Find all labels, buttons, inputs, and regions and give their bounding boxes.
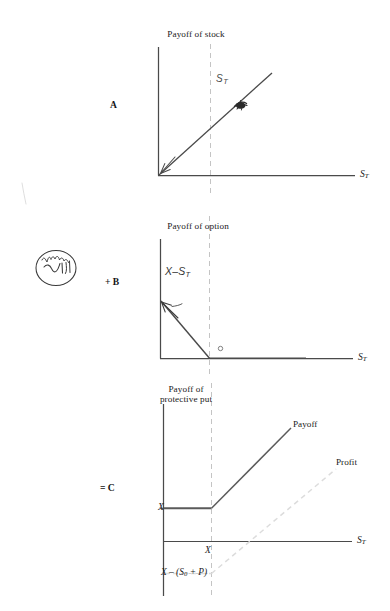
panel-c-tag: = C [100,482,115,493]
panel-a-x-axis-label: ST [360,168,369,180]
panel-c-y-tick-label-x: X [158,502,164,512]
panel-a-title: Payoff of stock [167,29,224,40]
panel-b-arrow-tail [172,304,182,307]
panel-b-plot [160,216,353,378]
panel-c-title-line2: protective put [160,394,212,405]
panel-a-handwritten-st-label: ST [216,73,228,86]
panel-c-profit-curve-label: Profit [336,457,357,467]
panel-a-tag: A [110,99,117,110]
panel-c-x-axis-label: ST [357,534,366,546]
panel-c-payoff-rising-segment [212,428,292,508]
panel-a-plot [158,44,355,196]
figure-protective-put: Payoff of stock A ST ST Payoff of option… [0,0,390,611]
stray-pencil-mark [22,183,26,204]
panel-c-profit-rising-segment [212,469,337,574]
panel-c-payoff-curve-label: Payoff [293,419,317,429]
panel-b-put-payoff-slope [161,301,210,358]
panel-b-title: Payoff of option [167,221,229,232]
panel-b-arrowhead-intercept [162,302,179,318]
panel-a-ink-blob [235,101,248,111]
panel-c-x-tick-label-x: X [205,545,211,555]
panel-b-handwritten-x-minus-st-label: X–ST [165,265,190,279]
panel-c-lower-intercept-label: X – (S0 + P) [161,567,207,577]
panel-c-plot [160,383,352,596]
figure-vector-layer [0,0,390,611]
panel-a-arrowhead-origin [161,157,176,174]
handwritten-circled-note [36,251,76,286]
panel-b-kink-open-circle-marker [218,346,222,350]
panel-b-tag: + B [105,276,119,287]
panel-a-stock-payoff-line [159,73,272,175]
panel-b-x-axis-label: ST [358,351,367,363]
